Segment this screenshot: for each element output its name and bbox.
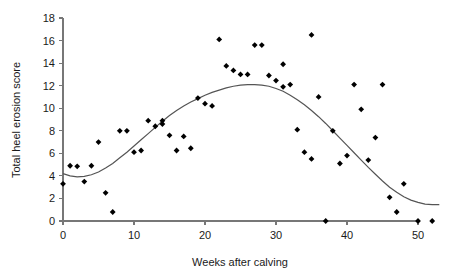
y-axis: 024681012141618 bbox=[43, 12, 63, 227]
x-tick-label-40: 40 bbox=[341, 229, 353, 241]
data-point bbox=[245, 71, 251, 77]
data-point bbox=[259, 42, 265, 48]
data-point bbox=[216, 37, 222, 43]
data-point bbox=[337, 161, 343, 167]
data-point bbox=[373, 135, 379, 141]
y-tick-label-18: 18 bbox=[43, 12, 55, 24]
y-tick-label-12: 12 bbox=[43, 80, 55, 92]
data-point bbox=[103, 190, 109, 196]
data-point bbox=[110, 209, 116, 215]
data-point bbox=[287, 82, 293, 88]
data-point bbox=[181, 134, 187, 140]
fitted-curve bbox=[63, 85, 439, 205]
data-points bbox=[60, 32, 435, 224]
y-tick-label-4: 4 bbox=[49, 170, 55, 182]
data-point bbox=[415, 218, 421, 224]
data-point bbox=[280, 61, 286, 67]
data-point bbox=[344, 153, 350, 159]
x-axis-title: Weeks after calving bbox=[192, 256, 288, 268]
data-point bbox=[223, 63, 229, 69]
data-point bbox=[323, 218, 329, 224]
data-point bbox=[238, 71, 244, 77]
data-point bbox=[266, 73, 272, 79]
data-point bbox=[380, 82, 386, 88]
data-point bbox=[365, 157, 371, 163]
data-point bbox=[74, 163, 80, 169]
data-point bbox=[231, 68, 237, 74]
y-tick-label-16: 16 bbox=[43, 35, 55, 47]
data-point bbox=[351, 82, 357, 88]
data-point bbox=[209, 103, 215, 109]
data-point bbox=[124, 128, 130, 134]
data-point bbox=[138, 148, 144, 154]
data-point bbox=[89, 163, 95, 169]
x-tick-label-10: 10 bbox=[128, 229, 140, 241]
data-point bbox=[394, 209, 400, 215]
y-tick-label-6: 6 bbox=[49, 147, 55, 159]
data-point bbox=[294, 127, 300, 133]
x-tick-label-20: 20 bbox=[199, 229, 211, 241]
y-tick-label-2: 2 bbox=[49, 192, 55, 204]
data-point bbox=[280, 84, 286, 90]
y-tick-label-8: 8 bbox=[49, 125, 55, 137]
y-tick-label-0: 0 bbox=[49, 215, 55, 227]
data-point bbox=[273, 78, 279, 84]
y-tick-label-10: 10 bbox=[43, 102, 55, 114]
data-point bbox=[152, 123, 158, 129]
data-point bbox=[167, 132, 173, 138]
data-point bbox=[387, 194, 393, 200]
data-point bbox=[309, 156, 315, 162]
data-point bbox=[358, 106, 364, 112]
data-point bbox=[316, 94, 322, 100]
chart-page: 024681012141618 01020304050 Total heel e… bbox=[0, 0, 458, 279]
data-point bbox=[188, 145, 194, 151]
y-axis-title: Total heel erosion score bbox=[10, 62, 22, 178]
x-tick-label-50: 50 bbox=[412, 229, 424, 241]
data-point bbox=[202, 101, 208, 107]
data-point bbox=[67, 163, 73, 169]
data-point bbox=[81, 179, 87, 185]
data-point bbox=[145, 118, 151, 124]
data-point bbox=[174, 148, 180, 154]
data-point bbox=[302, 149, 308, 155]
data-point bbox=[60, 181, 66, 187]
fitted-curve-path bbox=[63, 85, 439, 205]
heel-erosion-scatter-chart: 024681012141618 01020304050 Total heel e… bbox=[0, 0, 458, 279]
data-point bbox=[96, 139, 102, 145]
data-point bbox=[401, 181, 407, 187]
data-point bbox=[252, 42, 258, 48]
x-tick-label-30: 30 bbox=[270, 229, 282, 241]
data-point bbox=[131, 149, 137, 155]
x-tick-label-0: 0 bbox=[60, 229, 66, 241]
x-axis: 01020304050 bbox=[60, 221, 424, 241]
y-tick-label-14: 14 bbox=[43, 57, 55, 69]
data-point bbox=[309, 32, 315, 38]
data-point bbox=[117, 128, 123, 134]
data-point bbox=[429, 218, 435, 224]
